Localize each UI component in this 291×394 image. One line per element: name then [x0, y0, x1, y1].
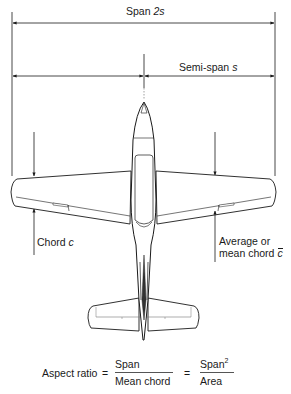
fraction-1-denominator: Mean chord: [115, 373, 173, 387]
mean-chord-label: Average or mean chord c: [219, 235, 283, 259]
fraction-span-squared-over-area: Span2 Area: [200, 358, 234, 387]
formula-equals-2: =: [184, 367, 190, 379]
semi-span-text: Semi-span: [179, 61, 229, 73]
fraction-2-exponent: 2: [225, 357, 229, 364]
semi-span-label: Semi-span s: [179, 61, 237, 73]
fraction-2-numerator-base: Span: [200, 358, 225, 370]
span-label: Span 2s: [126, 5, 165, 17]
mean-chord-symbol: c: [277, 247, 282, 259]
mean-chord-line1: Average or: [219, 235, 283, 247]
chord-text: Chord: [37, 236, 66, 248]
span-symbol: 2s: [153, 5, 164, 17]
fraction-span-over-mean-chord: Span Mean chord: [115, 358, 173, 387]
formula-equals-1: =: [102, 367, 108, 379]
fraction-2-numerator: Span2: [200, 358, 234, 373]
fraction-1-numerator: Span: [115, 358, 173, 373]
formula-lhs: Aspect ratio: [42, 367, 97, 379]
semi-span-symbol: s: [232, 61, 237, 73]
aircraft-planform-diagram: [0, 0, 291, 394]
fraction-2-denominator: Area: [200, 373, 234, 387]
mean-chord-line2: mean chord: [219, 247, 274, 259]
chord-label: Chord c: [37, 236, 74, 248]
chord-symbol: c: [69, 236, 74, 248]
span-text: Span: [126, 5, 151, 17]
